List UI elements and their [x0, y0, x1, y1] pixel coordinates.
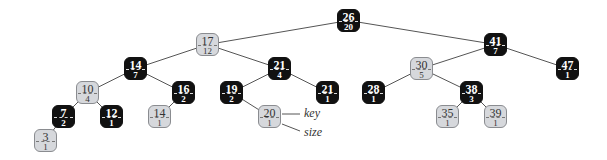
tree-node-3: 31: [34, 129, 57, 152]
tree-node-14: 147: [124, 57, 147, 80]
tree-node-39: 391: [484, 105, 507, 128]
node-size: 5: [411, 71, 432, 80]
node-size: 2: [173, 95, 194, 104]
node-size: 7: [485, 47, 506, 56]
node-size: 1: [101, 119, 122, 128]
node-size: 1: [485, 119, 506, 128]
tree-node-7: 72: [52, 105, 75, 128]
tree-node-21: 211: [316, 81, 339, 104]
node-size: 1: [317, 95, 338, 104]
tree-node-20: 201: [258, 105, 281, 128]
tree-node-28: 281: [362, 81, 385, 104]
tree-node-47: 471: [556, 57, 579, 80]
node-size: 1: [557, 71, 578, 80]
tree-node-41: 417: [484, 33, 507, 56]
node-size: 4: [77, 95, 98, 104]
node-size: 1: [363, 95, 384, 104]
node-size: 1: [437, 119, 458, 128]
tree-node-19: 192: [220, 81, 243, 104]
tree-node-35: 351: [436, 105, 459, 128]
tree-edge: [349, 21, 496, 45]
tree-node-16: 162: [172, 81, 195, 104]
tree-node-12: 121: [100, 105, 123, 128]
tree-node-10: 104: [76, 81, 99, 104]
node-size: 1: [259, 119, 280, 128]
key-annotation: key: [304, 106, 320, 121]
tree-edge: [208, 21, 349, 45]
node-size: 7: [125, 71, 146, 80]
node-size: 3: [461, 95, 482, 104]
tree-node-30: 305: [410, 57, 433, 80]
node-size: 2: [53, 119, 74, 128]
node-size: 2: [221, 95, 242, 104]
node-size: 12: [197, 47, 218, 56]
tree-node-17: 1712: [196, 33, 219, 56]
node-size: 4: [269, 71, 290, 80]
tree-node-38: 383: [460, 81, 483, 104]
node-size: 20: [338, 23, 359, 32]
node-size: 1: [149, 119, 170, 128]
tree-node-26: 2620: [337, 9, 360, 32]
tree-node-14: 141: [148, 105, 171, 128]
tree-node-21: 214: [268, 57, 291, 80]
node-size: 1: [35, 143, 56, 152]
size-annotation: size: [304, 125, 322, 140]
